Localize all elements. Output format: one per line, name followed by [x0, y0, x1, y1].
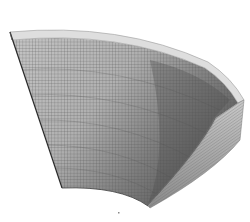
artifact-dot — [118, 212, 120, 214]
mesh-figure: 3D finite element mesh of a curved shell… — [0, 0, 250, 222]
shell-mesh-drawing — [0, 0, 250, 222]
